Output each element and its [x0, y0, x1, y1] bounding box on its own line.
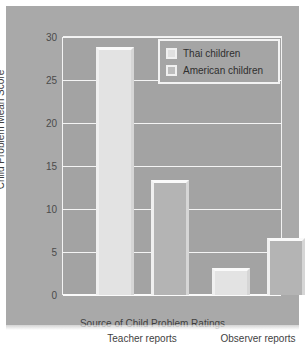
legend-item-american-children: American children	[166, 62, 272, 79]
y-tick-label: 30	[25, 32, 57, 43]
bar-observer-reports-american-children	[267, 238, 305, 295]
x-tick-label-observer-reports: Observer reports	[220, 333, 295, 344]
legend-item-thai-children: Thai children	[166, 45, 272, 62]
bar-face	[267, 238, 305, 295]
legend-label-american: American children	[183, 65, 263, 76]
bar-observer-reports-thai-children	[212, 268, 250, 295]
x-tick-label-teacher-reports: Teacher reports	[107, 333, 176, 344]
chart-figure: Child Problem Mean Score 051015202530 Te…	[0, 0, 305, 347]
y-tick-label: 5	[25, 247, 57, 258]
bar-face	[212, 268, 250, 295]
bar-teacher-reports-american-children	[151, 180, 189, 295]
legend-swatch-icon-american	[166, 65, 177, 76]
y-tick-label: 0	[25, 290, 57, 301]
chart-legend: Thai children American children	[158, 39, 280, 84]
y-tick-label: 25	[25, 75, 57, 86]
y-tick-label: 20	[25, 118, 57, 129]
bar-teacher-reports-thai-children	[96, 47, 134, 295]
legend-label-thai: Thai children	[183, 48, 240, 59]
gridline	[63, 37, 281, 38]
scan-artifact	[6, 325, 299, 330]
bar-face	[96, 47, 134, 295]
chart-panel: Child Problem Mean Score 051015202530 Te…	[6, 6, 299, 325]
legend-swatch-icon-thai	[166, 48, 177, 59]
y-tick-label: 15	[25, 161, 57, 172]
bar-face	[151, 180, 189, 295]
y-tick-label: 10	[25, 204, 57, 215]
y-axis-title: Child Problem Mean Score	[0, 50, 6, 210]
